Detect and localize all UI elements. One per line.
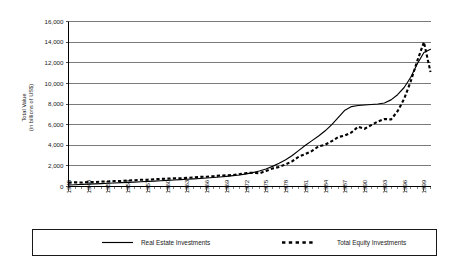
- line-chart-plot: 02,0004,0006,0008,00010,00012,00014,0001…: [0, 0, 455, 264]
- y-axis-title: Total Value (in billions of US$): [12, 60, 42, 160]
- legend-label-total-equity-investments: Total Equity Investments: [337, 239, 406, 247]
- y-tick-label: 16,000: [45, 18, 64, 25]
- gridlines-group: [69, 22, 431, 166]
- y-tick-label: 10,000: [45, 80, 64, 87]
- series-line-real-estate-investments: [69, 49, 431, 185]
- y-tick-label: 2,000: [48, 162, 64, 169]
- y-tick-label: 4,000: [48, 141, 64, 148]
- y-tick-label: 0: [60, 183, 64, 190]
- y-tick-label: 12,000: [45, 59, 64, 66]
- y-tick-label: 8,000: [48, 100, 64, 107]
- y-tick-label: 6,000: [48, 121, 64, 128]
- y-tick-label: 14,000: [45, 38, 64, 45]
- y-tick-labels-group: 02,0004,0006,0008,00010,00012,00014,0001…: [45, 18, 64, 190]
- legend-label-real-estate-investments: Real Estate Investments: [141, 239, 210, 246]
- chart-figure: Total Value (in billions of US$) 02,0004…: [0, 0, 455, 264]
- series-line-total-equity-investments: [69, 42, 431, 182]
- y-axis-title-line-2: (in billions of US$): [28, 47, 35, 167]
- y-axis-title-line-1: Total Value: [21, 47, 28, 167]
- chart-legend: Real Estate Investments Total Equity Inv…: [33, 230, 437, 256]
